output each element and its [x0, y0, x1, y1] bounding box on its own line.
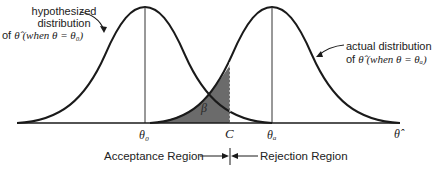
beta-label: β: [201, 102, 207, 114]
acceptance-region-label: Acceptance Region: [104, 150, 204, 162]
rejection-arrowhead-icon: [231, 153, 238, 159]
rejection-region-label: Rejection Region: [260, 150, 348, 162]
axis-end-label: θ̂: [394, 128, 400, 140]
right-annotation-line2: of θ̂ (when θ = θₐ): [346, 53, 427, 65]
left-annotation-line3: of θ̂ (when θ = θ₀): [2, 29, 83, 41]
beta-shaded-region: [150, 65, 230, 123]
left-annotation-line1: hypothesized: [14, 5, 114, 17]
actual-distribution-curve: [150, 7, 400, 123]
left-annotation-line2: distribution: [14, 17, 114, 29]
theta0-tick-label: θ₀: [139, 129, 149, 141]
critical-value-label: C: [225, 128, 234, 140]
acceptance-arrowhead-icon: [222, 153, 229, 159]
left-annotation: hypothesized distribution: [14, 5, 114, 29]
right-annotation-line1: actual distribution: [346, 40, 432, 52]
right-arrowhead-icon: [316, 51, 323, 57]
right-annotation-arrow: [319, 45, 344, 55]
thetaA-tick-label: θₐ: [267, 129, 276, 141]
